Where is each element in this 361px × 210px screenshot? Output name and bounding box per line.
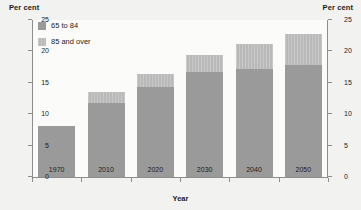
x-tick-2010 bbox=[81, 178, 82, 182]
x-tick-end bbox=[328, 178, 329, 182]
bar-segment-85-and-over-2050 bbox=[285, 34, 322, 65]
x-tick-label-2020: 2020 bbox=[135, 166, 175, 173]
x-tick-label-2010: 2010 bbox=[86, 166, 126, 173]
y-tick-label-right-5: 5 bbox=[344, 142, 361, 149]
legend-label: 65 to 84 bbox=[51, 21, 78, 30]
y-axis-title-right: Per cent bbox=[323, 3, 353, 12]
legend-swatch-icon-lower bbox=[38, 22, 46, 30]
bar-2030 bbox=[186, 55, 223, 177]
legend-swatch-icon-upper bbox=[38, 38, 46, 46]
y-tick-right-15 bbox=[328, 82, 332, 83]
bar-segment-85-and-over-2030 bbox=[186, 55, 223, 73]
y-tick-label-right-25: 25 bbox=[344, 16, 361, 23]
x-tick-2030 bbox=[180, 178, 181, 182]
stacked-bar-chart: Per cent Per cent 0510152025 0510152025 … bbox=[0, 0, 361, 210]
bar-segment-65-to-84-2040 bbox=[236, 69, 273, 177]
bar-segment-85-and-over-2040 bbox=[236, 44, 273, 69]
bar-segment-65-to-84-2050 bbox=[285, 65, 322, 177]
y-axis-line-left bbox=[32, 20, 33, 178]
y-tick-label-right-10: 10 bbox=[344, 110, 361, 117]
bar-segment-85-and-over-2010 bbox=[88, 92, 125, 103]
bar-2050 bbox=[285, 34, 322, 177]
y-tick-right-5 bbox=[328, 145, 332, 146]
legend: 65 to 8485 and over bbox=[38, 21, 91, 53]
y-axis-title-left: Per cent bbox=[9, 3, 39, 12]
y-tick-right-0 bbox=[328, 176, 332, 177]
bar-2040 bbox=[236, 44, 273, 177]
y-tick-label-left-0: 0 bbox=[25, 173, 49, 180]
y-tick-label-right-20: 20 bbox=[344, 47, 361, 54]
y-axis-line-right bbox=[327, 20, 328, 178]
bar-2010 bbox=[88, 92, 125, 177]
y-tick-right-20 bbox=[328, 50, 332, 51]
bar-segment-85-and-over-2020 bbox=[137, 74, 174, 87]
y-tick-right-25 bbox=[328, 19, 332, 20]
x-tick-label-2050: 2050 bbox=[283, 166, 323, 173]
y-tick-right-10 bbox=[328, 113, 332, 114]
y-tick-label-left-10: 10 bbox=[25, 110, 49, 117]
bar-segment-65-to-84-2030 bbox=[186, 72, 223, 177]
legend-item-lower[interactable]: 65 to 84 bbox=[38, 21, 91, 30]
x-axis-title: Year bbox=[0, 194, 361, 203]
y-tick-label-left-15: 15 bbox=[25, 79, 49, 86]
x-tick-label-2030: 2030 bbox=[185, 166, 225, 173]
y-tick-label-right-15: 15 bbox=[344, 79, 361, 86]
x-tick-2050 bbox=[279, 178, 280, 182]
x-tick-2020 bbox=[131, 178, 132, 182]
bar-segment-65-to-84-2020 bbox=[137, 87, 174, 177]
legend-item-upper[interactable]: 85 and over bbox=[38, 37, 91, 46]
x-tick-label-1970: 1970 bbox=[37, 166, 77, 173]
x-tick-2040 bbox=[229, 178, 230, 182]
y-tick-label-left-5: 5 bbox=[25, 142, 49, 149]
legend-label: 85 and over bbox=[51, 37, 91, 46]
y-tick-label-right-0: 0 bbox=[344, 173, 361, 180]
bar-2020 bbox=[137, 74, 174, 177]
x-tick-label-2040: 2040 bbox=[234, 166, 274, 173]
